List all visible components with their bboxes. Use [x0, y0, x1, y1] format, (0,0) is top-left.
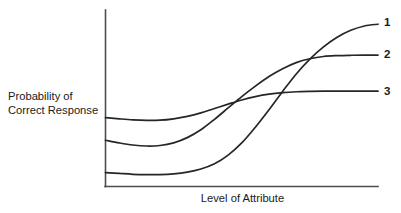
y-axis-title: Probability of Correct Response	[8, 90, 102, 117]
icc-chart-figure: 1 2 3 Probability of Correct Response Le…	[0, 0, 401, 213]
curve-1-label: 1	[384, 17, 390, 29]
curve-2-label: 2	[384, 49, 390, 61]
x-axis-title: Level of Attribute	[105, 192, 380, 205]
curve-3-label: 3	[384, 86, 390, 98]
